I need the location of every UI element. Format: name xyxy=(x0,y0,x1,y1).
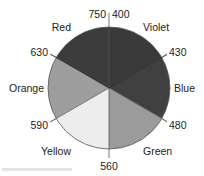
tick-430 xyxy=(162,54,167,58)
label-violet: Violet xyxy=(143,21,169,33)
label-blue: Blue xyxy=(174,82,195,94)
color-wheel-chart: 750 400 430 480 560 590 630 Red Violet B… xyxy=(0,0,204,176)
label-400: 400 xyxy=(112,8,130,20)
label-red: Red xyxy=(52,21,71,33)
tick-590 xyxy=(50,119,56,123)
cropped-caption xyxy=(2,168,72,171)
label-green: Green xyxy=(143,145,172,157)
tick-630 xyxy=(50,54,56,58)
label-590: 590 xyxy=(30,119,48,131)
label-430: 430 xyxy=(169,46,187,58)
tick-480 xyxy=(162,119,167,123)
label-750: 750 xyxy=(88,8,106,20)
label-630: 630 xyxy=(30,46,48,58)
label-560: 560 xyxy=(100,160,118,172)
label-480: 480 xyxy=(169,119,187,131)
label-yellow: Yellow xyxy=(41,145,71,157)
pie-svg: 750 400 430 480 560 590 630 Red Violet B… xyxy=(0,0,204,176)
label-orange: Orange xyxy=(9,82,44,94)
